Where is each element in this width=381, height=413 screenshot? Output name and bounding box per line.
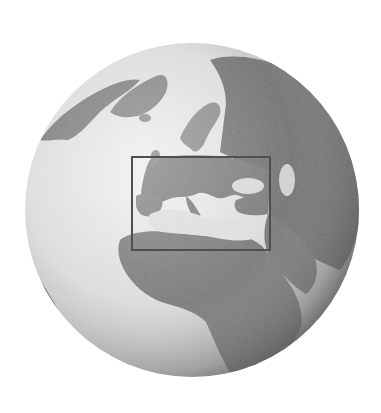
globe-figure <box>0 0 381 413</box>
landmass-madagascar <box>310 327 326 352</box>
globe-shading <box>25 43 359 377</box>
globe-map <box>0 0 381 413</box>
